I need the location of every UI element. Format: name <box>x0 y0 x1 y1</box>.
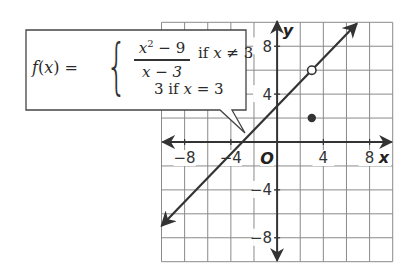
filled-point <box>308 114 316 122</box>
case2-value: 3 if <box>154 80 183 98</box>
numerator-rest: − 9 <box>154 39 186 57</box>
case1-relation: ≠ 3 <box>222 44 254 62</box>
lhs-var: x <box>44 58 53 77</box>
case1-var: x <box>213 44 221 62</box>
function-lhs: f(x) = <box>32 58 78 77</box>
fraction-denominator: x − 3 <box>134 62 190 82</box>
x-tick-label: −8 <box>174 149 196 167</box>
function-definition-callout: f(x) = { x2 − 9 x − 3 if x ≠ 3 3 if x = … <box>26 30 246 110</box>
function-name: f <box>32 58 38 77</box>
fraction-bar <box>134 59 190 61</box>
open-circle-hole <box>308 66 316 74</box>
fraction-numerator: x2 − 9 <box>134 34 190 58</box>
x-tick-label: −4 <box>220 149 242 167</box>
origin-label: O <box>260 149 274 168</box>
case2-var: x <box>183 80 191 98</box>
y-tick-label: −4 <box>250 181 272 199</box>
y-axis-label: y <box>283 21 294 40</box>
y-tick-label: 4 <box>263 86 273 104</box>
case2-relation: = 3 <box>192 80 224 98</box>
x-tick-label: 4 <box>319 149 329 167</box>
fraction: x2 − 9 x − 3 <box>134 34 190 82</box>
case1-if: if <box>198 44 213 62</box>
case2: 3 if x = 3 <box>154 80 224 98</box>
numerator-var: x <box>139 39 147 57</box>
x-axis-label: x <box>378 148 390 167</box>
y-tick-label: 8 <box>263 38 273 56</box>
case1-condition: if x ≠ 3 <box>198 44 253 62</box>
y-tick-label: −8 <box>250 229 272 247</box>
x-tick-label: 8 <box>365 149 375 167</box>
piecewise-brace: { <box>106 36 127 96</box>
